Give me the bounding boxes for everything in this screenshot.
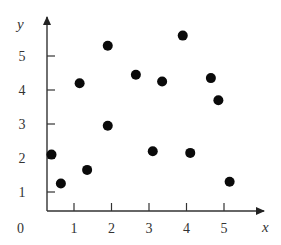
x-axis-label: x [261,219,269,235]
data-point [47,150,57,160]
data-point [82,165,92,175]
x-tick-label: 3 [146,221,153,236]
x-tick-label: 5 [221,221,228,236]
y-tick-label: 4 [19,83,26,98]
y-tick-label: 2 [19,151,26,166]
y-tick-label: 5 [19,49,26,64]
x-tick-label: 2 [108,221,115,236]
data-point [206,73,216,83]
x-ticks: 12345 [71,203,228,236]
data-point [56,179,66,189]
data-point [225,177,235,187]
y-tick-label: 3 [19,117,26,132]
data-point [185,148,195,158]
data-point [148,146,158,156]
data-point [157,77,167,87]
x-tick-label: 1 [71,221,78,236]
x-axis: 12345 x [47,203,269,236]
data-points [47,31,235,189]
y-ticks: 12345 [19,49,56,200]
data-point [103,41,113,51]
y-tick-label: 1 [19,185,26,200]
x-tick-label: 4 [183,221,190,236]
scatter-plot: 12345 x 12345 y 0 [0,0,281,245]
y-axis: 12345 y [15,16,55,211]
data-point [131,70,141,80]
data-point [213,95,223,105]
data-point [178,31,188,41]
data-point [75,78,85,88]
origin-label: 0 [17,221,24,236]
data-point [103,121,113,131]
y-axis-label: y [15,16,24,32]
